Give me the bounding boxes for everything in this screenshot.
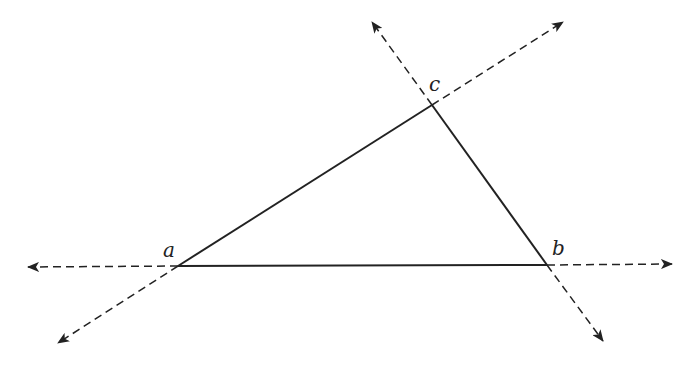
dashed-arrow-extension-ac bbox=[58, 266, 178, 343]
dashed-arrow-extension-bc bbox=[547, 265, 603, 341]
triangle-diagram: a b c bbox=[0, 0, 692, 366]
side-ca bbox=[178, 105, 432, 266]
side-ab bbox=[178, 265, 547, 266]
diagram-drawing bbox=[0, 0, 692, 366]
vertex-label-b: b bbox=[552, 238, 565, 258]
dashed-arrow-extension-ab bbox=[28, 266, 178, 267]
vertex-label-a: a bbox=[163, 240, 175, 260]
dashed-arrow-extension-ab bbox=[547, 264, 672, 265]
dashed-arrow-extension-ac bbox=[432, 22, 563, 105]
line-extensions bbox=[28, 22, 672, 343]
vertex-label-c: c bbox=[429, 74, 440, 94]
dashed-arrow-extension-bc bbox=[372, 22, 432, 105]
side-bc bbox=[432, 105, 547, 265]
triangle-sides bbox=[178, 105, 547, 266]
